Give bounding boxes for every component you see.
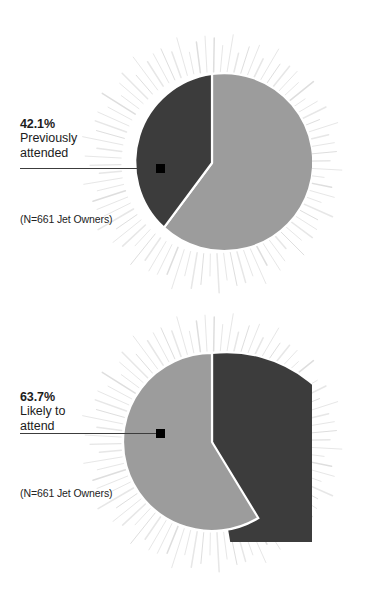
chart-panel-likely-to-attend: 63.7% Likely to attend (N=661 Jet Owners… <box>0 282 365 603</box>
slice-marker-2 <box>156 429 165 438</box>
callout-2-description-line-2: attend <box>20 419 150 434</box>
sample-note-2: (N=661 Jet Owners) <box>20 487 112 499</box>
callout-2-percent: 63.7% <box>20 390 150 404</box>
pie-slices-2 <box>112 342 312 542</box>
callout-1-percent: 42.1% <box>20 117 150 131</box>
callout-1: 42.1% Previously attended <box>20 117 150 160</box>
leader-line-1 <box>20 168 162 169</box>
pie-slices-1 <box>112 63 312 263</box>
callout-1-description-line-2: attended <box>20 146 150 161</box>
sample-note-1: (N=661 Jet Owners) <box>20 213 112 225</box>
slice-marker-1 <box>156 164 165 173</box>
infographic-page: 42.1% Previously attended (N=661 Jet Own… <box>0 0 365 603</box>
callout-1-description-line-1: Previously <box>20 131 150 146</box>
callout-2: 63.7% Likely to attend <box>20 390 150 433</box>
leader-line-2 <box>20 433 162 434</box>
chart-panel-previously-attended: 42.1% Previously attended (N=661 Jet Own… <box>0 0 365 300</box>
pie-chart-2 <box>0 282 365 603</box>
callout-2-description-line-1: Likely to <box>20 404 150 419</box>
